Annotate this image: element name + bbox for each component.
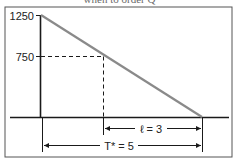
y-label-750: 750 <box>16 51 34 63</box>
y-label-1250: 1250 <box>10 10 34 22</box>
lead-time-label: ℓ = 3 <box>140 123 162 135</box>
inventory-line <box>41 15 202 117</box>
cycle-time-label: T* = 5 <box>104 140 134 152</box>
inventory-diagram: 1250 750 ℓ = 3 T* = 5 <box>0 0 239 160</box>
figure-frame <box>5 7 232 157</box>
